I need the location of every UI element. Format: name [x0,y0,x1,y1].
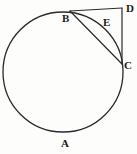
vertex-label-c: C [124,60,132,71]
chord-segment-bc [70,11,122,64]
vertex-label-d: D [126,3,134,14]
tangent-segment-bd [70,8,122,11]
vertex-label-b: B [62,13,69,24]
geometry-diagram: A B C D E [0,0,137,154]
circle-shape [3,12,123,132]
vertex-label-a: A [61,138,69,149]
vertex-label-e: E [103,17,110,28]
